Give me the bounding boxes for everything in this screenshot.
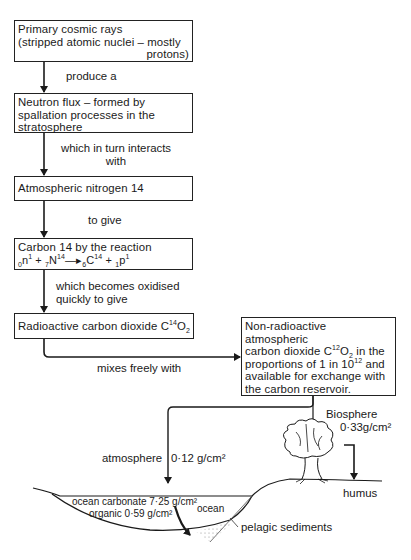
box-neutron-flux: Neutron flux – formed by spallation proc… [14, 93, 193, 133]
carbon14-equation: 0n1 + 7N14—▸6C14 + 1p1 [18, 254, 129, 266]
box-non-radioactive-co2: Non-radioactive atmospheric carbon dioxi… [241, 317, 396, 396]
eq-N-sup: 14 [57, 253, 65, 260]
label-pelagic-sediments: pelagic sediments [241, 521, 332, 534]
box-radioactive-co2: Radioactive carbon dioxide C14O2 [14, 313, 194, 339]
neutron-line3: stratosphere [18, 121, 83, 133]
tree-icon [283, 419, 332, 484]
label-atmosphere-value: 0·12 g/cm² [171, 452, 225, 465]
box-atmospheric-nitrogen: Atmospheric nitrogen 14 [14, 176, 193, 201]
nonrad-line2c: in the [353, 345, 385, 357]
box-primary-cosmic-rays: Primary cosmic rays (stripped atomic nuc… [14, 20, 193, 62]
cosmic-rays-line2: (stripped atomic nuclei – mostly [18, 36, 181, 48]
label-produce: produce a [66, 70, 117, 83]
label-to-give: to give [88, 214, 122, 227]
label-interacts: which in turn interacts with [54, 142, 178, 167]
nonrad-line2-sup: 12 [332, 344, 340, 351]
eq-p-sup: 1 [125, 253, 129, 260]
neutron-line1: Neutron flux – formed by [18, 96, 145, 108]
radioactive-co2-o: O [177, 320, 186, 332]
nonrad-line2b: O [340, 345, 349, 357]
arrow-to-humus [344, 445, 354, 479]
interacts-line1: which in turn interacts [61, 142, 171, 154]
label-oxidised: which becomes oxidised quickly to give [56, 280, 179, 305]
label-humus: humus [343, 487, 377, 500]
cosmic-rays-line3: protons) [18, 48, 189, 61]
eq-N: N [49, 254, 57, 266]
label-biosphere: Biosphere [326, 408, 377, 421]
label-atmosphere: atmosphere [102, 452, 162, 465]
ground-line [33, 479, 382, 496]
radioactive-co2-text: Radioactive carbon dioxide C [18, 320, 169, 332]
interacts-line2: with [106, 155, 126, 167]
cosmic-rays-line1: Primary cosmic rays [18, 23, 122, 35]
arrow-co2-to-nonradioactive [44, 339, 240, 357]
neutron-line2: spallation processes in the [18, 109, 155, 121]
nonrad-line3b: and [362, 358, 385, 370]
nonrad-line1: Non-radioactive atmospheric [245, 320, 326, 345]
label-mixes: mixes freely with [97, 362, 181, 375]
label-ocean-carbonate: ocean carbonate 7·25 g/cm² [72, 496, 197, 509]
nonrad-line5: the carbon reservoir. [245, 383, 351, 395]
label-organic: organic 0·59 g/cm² [89, 508, 172, 521]
radioactive-co2-sup: 14 [169, 319, 177, 326]
arrow-ocean-to-sediments [175, 506, 190, 535]
nonrad-line3a: proportions of 1 in 10 [245, 358, 354, 370]
box-carbon-14: Carbon 14 by the reaction 0n1 + 7N14—▸6C… [14, 238, 193, 270]
label-biosphere-value: 0·33g/cm² [340, 421, 391, 434]
radioactive-co2-sub: 2 [186, 327, 190, 334]
eq-plus: + [102, 254, 115, 266]
nonrad-line2a: carbon dioxide C [245, 345, 332, 357]
eq-plus: + [32, 254, 45, 266]
label-ocean: ocean [197, 503, 224, 516]
nonrad-line4: available for exchange with [245, 370, 385, 382]
oxidised-line1: which becomes oxidised [56, 280, 179, 292]
nitrogen-text: Atmospheric nitrogen 14 [18, 182, 144, 194]
oxidised-line2: quickly to give [56, 293, 128, 305]
carbon14-line1: Carbon 14 by the reaction [18, 241, 152, 253]
eq-arrow: —▸ [65, 254, 82, 266]
